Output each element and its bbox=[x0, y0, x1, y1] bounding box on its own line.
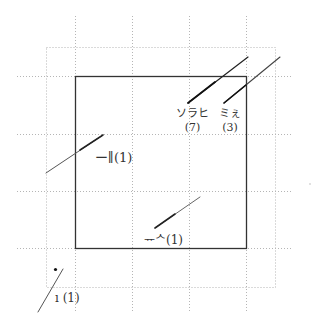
label-sorahi: ソラヒ (7) bbox=[176, 107, 209, 134]
label-bottom: ᅲᄉ(1) bbox=[144, 234, 183, 246]
leader-lines bbox=[38, 57, 280, 312]
horizontal-grid-lines bbox=[17, 77, 292, 249]
label-mie-text: ミぇ bbox=[219, 107, 241, 120]
label-sorahi-text: ソラヒ bbox=[176, 107, 209, 120]
outer-dotted-box bbox=[47, 48, 276, 288]
label-mie-count: (3) bbox=[219, 122, 241, 134]
diagram-canvas bbox=[0, 0, 319, 328]
label-mie: ミぇ (3) bbox=[219, 107, 241, 134]
label-corner: ı (1) bbox=[55, 292, 80, 304]
faint-mark bbox=[309, 183, 311, 185]
label-ichi: ー∥(1) bbox=[95, 152, 132, 164]
corner-point bbox=[54, 268, 57, 271]
label-sorahi-count: (7) bbox=[176, 122, 209, 134]
